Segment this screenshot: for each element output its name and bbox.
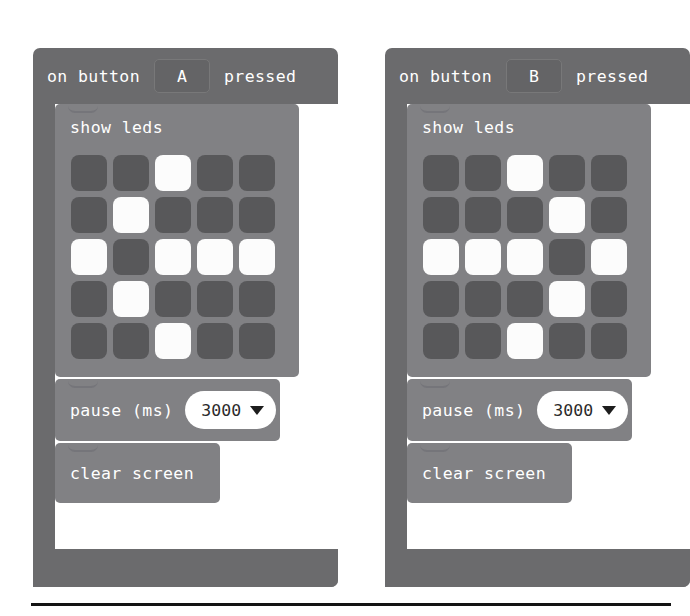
- pause-duration-value: 3000: [553, 401, 593, 420]
- led-cell[interactable]: [239, 239, 275, 275]
- led-cell[interactable]: [197, 239, 233, 275]
- led-cell[interactable]: [197, 323, 233, 359]
- led-cell[interactable]: [113, 323, 149, 359]
- event-block-header[interactable]: on button B pressed: [385, 48, 690, 104]
- led-cell[interactable]: [549, 197, 585, 233]
- led-cell[interactable]: [113, 239, 149, 275]
- event-label-prefix: on button: [47, 67, 140, 86]
- led-cell[interactable]: [507, 197, 543, 233]
- event-label-suffix: pressed: [224, 67, 296, 86]
- led-cell[interactable]: [423, 239, 459, 275]
- led-cell[interactable]: [549, 155, 585, 191]
- led-cell[interactable]: [113, 197, 149, 233]
- event-block-footer: [385, 549, 690, 587]
- pause-block[interactable]: pause (ms) 3000: [55, 379, 280, 441]
- chevron-down-icon: [250, 406, 264, 415]
- led-cell[interactable]: [591, 323, 627, 359]
- show-leds-label: show leds: [55, 118, 299, 137]
- led-cell[interactable]: [71, 281, 107, 317]
- led-cell[interactable]: [549, 323, 585, 359]
- chevron-down-icon: [602, 406, 616, 415]
- event-block-spine: [33, 104, 55, 549]
- event-block-body: show leds: [385, 104, 690, 549]
- led-cell[interactable]: [197, 281, 233, 317]
- clear-screen-label: clear screen: [70, 464, 194, 483]
- led-cell[interactable]: [197, 197, 233, 233]
- block-notch: [68, 442, 98, 452]
- led-cell[interactable]: [423, 155, 459, 191]
- led-cell[interactable]: [423, 197, 459, 233]
- led-cell[interactable]: [155, 155, 191, 191]
- led-cell[interactable]: [591, 281, 627, 317]
- led-matrix-5x5[interactable]: [423, 155, 651, 359]
- horizontal-divider: [31, 603, 671, 606]
- show-leds-block[interactable]: show leds: [55, 104, 299, 377]
- button-selector-value: B: [529, 67, 539, 86]
- event-block-spine: [385, 104, 407, 549]
- led-cell[interactable]: [549, 281, 585, 317]
- led-cell[interactable]: [507, 323, 543, 359]
- led-cell[interactable]: [423, 281, 459, 317]
- led-cell[interactable]: [155, 197, 191, 233]
- led-cell[interactable]: [465, 155, 501, 191]
- event-label-suffix: pressed: [576, 67, 648, 86]
- led-cell[interactable]: [155, 281, 191, 317]
- block-notch: [420, 103, 450, 113]
- led-matrix-5x5[interactable]: [71, 155, 299, 359]
- led-cell[interactable]: [239, 197, 275, 233]
- pause-duration-value: 3000: [201, 401, 241, 420]
- statement-stack: show leds: [55, 104, 299, 503]
- led-cell[interactable]: [591, 197, 627, 233]
- led-cell[interactable]: [507, 239, 543, 275]
- led-cell[interactable]: [239, 281, 275, 317]
- show-leds-block[interactable]: show leds: [407, 104, 651, 377]
- led-cell[interactable]: [507, 155, 543, 191]
- pause-duration-dropdown[interactable]: 3000: [537, 391, 628, 429]
- led-cell[interactable]: [465, 281, 501, 317]
- led-cell[interactable]: [239, 323, 275, 359]
- pause-label: pause (ms): [422, 401, 525, 420]
- led-cell[interactable]: [71, 197, 107, 233]
- led-cell[interactable]: [591, 155, 627, 191]
- clear-screen-label: clear screen: [422, 464, 546, 483]
- statement-stack: show leds: [407, 104, 651, 503]
- clear-screen-block[interactable]: clear screen: [55, 443, 220, 503]
- led-cell[interactable]: [591, 239, 627, 275]
- clear-screen-block[interactable]: clear screen: [407, 443, 572, 503]
- event-block-footer: [33, 549, 338, 587]
- led-cell[interactable]: [239, 155, 275, 191]
- event-block-on-button-a-pressed[interactable]: on button A pressed show leds: [33, 48, 338, 587]
- block-notch: [420, 378, 450, 388]
- led-cell[interactable]: [155, 239, 191, 275]
- event-block-on-button-b-pressed[interactable]: on button B pressed show leds: [385, 48, 690, 587]
- led-cell[interactable]: [507, 281, 543, 317]
- block-notch: [68, 378, 98, 388]
- show-leds-label: show leds: [407, 118, 651, 137]
- event-label-prefix: on button: [399, 67, 492, 86]
- pause-label: pause (ms): [70, 401, 173, 420]
- led-cell[interactable]: [71, 155, 107, 191]
- led-cell[interactable]: [113, 281, 149, 317]
- button-selector-value: A: [177, 67, 187, 86]
- event-block-body: show leds: [33, 104, 338, 549]
- led-cell[interactable]: [113, 155, 149, 191]
- led-cell[interactable]: [549, 239, 585, 275]
- button-selector-dropdown[interactable]: A: [154, 59, 210, 93]
- pause-duration-dropdown[interactable]: 3000: [185, 391, 276, 429]
- led-cell[interactable]: [71, 323, 107, 359]
- led-cell[interactable]: [155, 323, 191, 359]
- led-cell[interactable]: [465, 323, 501, 359]
- event-block-header[interactable]: on button A pressed: [33, 48, 338, 104]
- button-selector-dropdown[interactable]: B: [506, 59, 562, 93]
- block-notch: [420, 442, 450, 452]
- pause-block[interactable]: pause (ms) 3000: [407, 379, 632, 441]
- led-cell[interactable]: [465, 239, 501, 275]
- led-cell[interactable]: [423, 323, 459, 359]
- block-notch: [68, 103, 98, 113]
- led-cell[interactable]: [465, 197, 501, 233]
- led-cell[interactable]: [197, 155, 233, 191]
- led-cell[interactable]: [71, 239, 107, 275]
